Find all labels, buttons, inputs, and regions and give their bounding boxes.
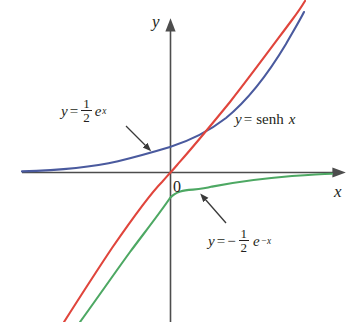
annotation-arrow-half-exp — [126, 126, 146, 146]
hyperbolic-sine-figure: y x 0 y = 1 2 ex y = senh x y = − — [0, 0, 354, 322]
x-axis-label: x — [334, 183, 342, 200]
annotation-arrow-neg-half-exp — [205, 199, 226, 223]
label-senh-function: senh — [256, 112, 284, 127]
origin-label: 0 — [173, 179, 181, 195]
label-half-exp-lhs: y — [61, 104, 68, 119]
curve-label-half-exp: y = 1 2 ex — [60, 98, 106, 126]
label-senh-equals: = — [244, 112, 252, 127]
label-half-exp-denominator: 2 — [81, 110, 92, 124]
label-senh-lhs: y — [235, 112, 242, 127]
curve-half-exp — [22, 12, 304, 171]
y-axis-label: y — [152, 13, 160, 30]
curve-label-neg-half-exp: y = − 1 2 e−x — [207, 228, 271, 256]
curve-senh — [64, 1, 305, 322]
curve-label-senh: y = senh x — [234, 112, 296, 127]
label-half-exp-exponent: x — [102, 107, 106, 116]
label-neg-half-exp-numerator: 1 — [239, 227, 250, 240]
label-neg-half-exp-fraction: 1 2 — [239, 227, 250, 255]
label-neg-half-exp-minus: − — [227, 234, 235, 249]
plot-canvas — [0, 0, 354, 322]
label-neg-half-exp-exponent: −x — [261, 237, 271, 246]
label-half-exp-equals: = — [70, 104, 78, 119]
label-half-exp-base: e — [95, 104, 102, 119]
curve-neg-half-exp — [80, 174, 332, 322]
label-half-exp-fraction: 1 2 — [81, 97, 92, 125]
label-neg-half-exp-base: e — [253, 234, 260, 249]
label-senh-argument: x — [289, 112, 296, 127]
label-neg-half-exp-lhs: y — [208, 234, 215, 249]
label-neg-half-exp-denominator: 2 — [239, 240, 250, 254]
label-neg-half-exp-equals: = — [217, 234, 225, 249]
label-half-exp-numerator: 1 — [81, 97, 92, 110]
